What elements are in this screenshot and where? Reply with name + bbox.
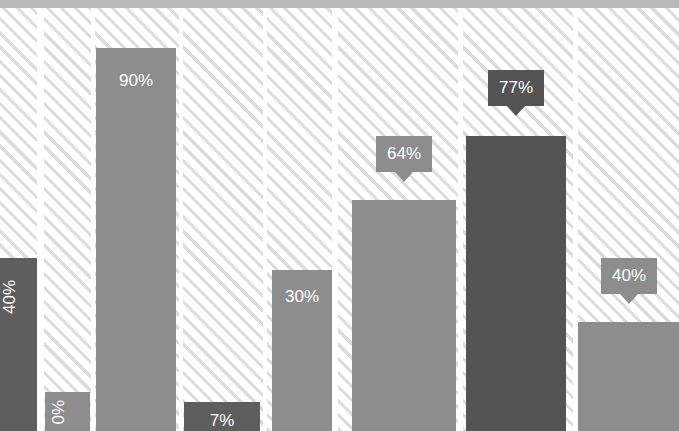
bar-callout-text: 77% [499, 78, 533, 97]
bar-callout-label: 40% [601, 258, 657, 294]
chart-column [183, 8, 263, 431]
bar-inline-label: 40% [1, 280, 19, 314]
bar-callout-label: 64% [376, 136, 432, 172]
top-band [0, 0, 679, 8]
callout-tail-icon [620, 294, 638, 304]
bar-chart: 40%0%90%7%30%64%77%40% [0, 0, 679, 431]
callout-tail-icon [395, 172, 413, 182]
bar-callout-text: 64% [387, 144, 421, 163]
bar-inline-label: 90% [96, 72, 176, 89]
bar-inline-label: 0% [50, 400, 68, 425]
bar-callout-label: 77% [488, 70, 544, 106]
bar[interactable] [466, 136, 566, 431]
callout-tail-icon [507, 106, 525, 116]
bar-inline-label: 7% [184, 412, 260, 429]
plot-area: 40%0%90%7%30%64%77%40% [0, 8, 679, 431]
chart-column [44, 8, 91, 431]
bar[interactable] [352, 200, 456, 431]
bar-inline-label: 30% [272, 288, 332, 305]
bar[interactable] [96, 48, 176, 431]
bar[interactable] [578, 322, 679, 431]
bar-callout-text: 40% [612, 266, 646, 285]
